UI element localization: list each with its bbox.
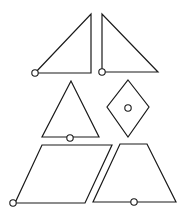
shape-right-triangle-left xyxy=(32,14,91,76)
shape-rhombus xyxy=(107,80,149,137)
shape-trapezoid xyxy=(93,144,176,205)
parallelogram-outline xyxy=(15,145,112,203)
shape-right-triangle-right xyxy=(99,14,158,75)
shape-isosceles-triangle xyxy=(42,81,99,141)
vertex-marker-icon xyxy=(99,69,105,75)
base-marker-icon xyxy=(131,199,137,205)
right-triangle-left-outline xyxy=(35,14,91,73)
isosceles-triangle-outline xyxy=(42,81,99,137)
shapes-diagram xyxy=(0,0,188,217)
base-marker-icon xyxy=(67,135,73,141)
shape-parallelogram xyxy=(10,145,112,206)
center-marker-icon xyxy=(125,105,131,111)
vertex-marker-icon xyxy=(10,200,16,206)
vertex-marker-icon xyxy=(32,70,38,76)
trapezoid-outline xyxy=(93,144,176,202)
right-triangle-right-outline xyxy=(102,14,158,72)
